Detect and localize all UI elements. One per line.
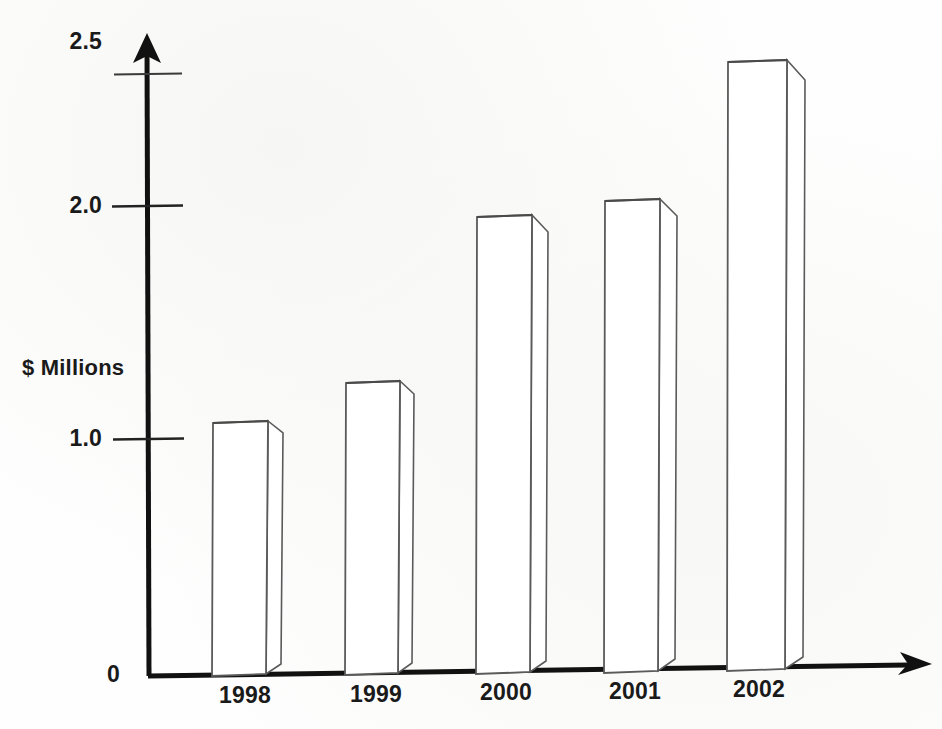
bar-2000-front-face [476,215,532,674]
y-tick-2-5 [114,74,182,75]
bar-2001 [604,199,677,673]
y-tick-2-0 [112,206,183,207]
bar-chart-figure: 2.5 2.0 1.0 0 $ Millions 1998 1999 2000 … [0,0,942,729]
bar-1998-front-face [212,421,268,676]
bar-2001-front-face [604,199,660,673]
chart-canvas [0,0,942,729]
y-axis-line [147,48,149,676]
bar-2001-side-face [658,199,677,671]
bar-2002-front-face [727,60,787,671]
x-category-label-1999: 1999 [326,681,426,708]
y-tick-label-2-0: 2.0 [30,192,102,219]
x-category-label-2001: 2001 [585,678,685,705]
x-category-label-1998: 1998 [195,682,295,709]
x-category-label-2002: 2002 [709,676,809,703]
y-tick-label-2-5: 2.5 [30,28,102,55]
bar-1999 [345,381,414,675]
y-tick-label-1-0: 1.0 [30,425,102,452]
y-tick-1-0 [113,439,184,440]
bar-1998 [212,421,283,676]
bar-1999-front-face [345,381,400,675]
y-axis-title: $ Millions [22,355,124,381]
bar-2002 [727,60,805,671]
bar-2002-side-face [785,60,805,669]
bar-2000-side-face [530,215,548,672]
x-category-label-2000: 2000 [456,679,556,706]
bar-2000 [476,215,548,674]
y-tick-label-0: 0 [62,661,120,688]
y-axis [133,33,161,676]
